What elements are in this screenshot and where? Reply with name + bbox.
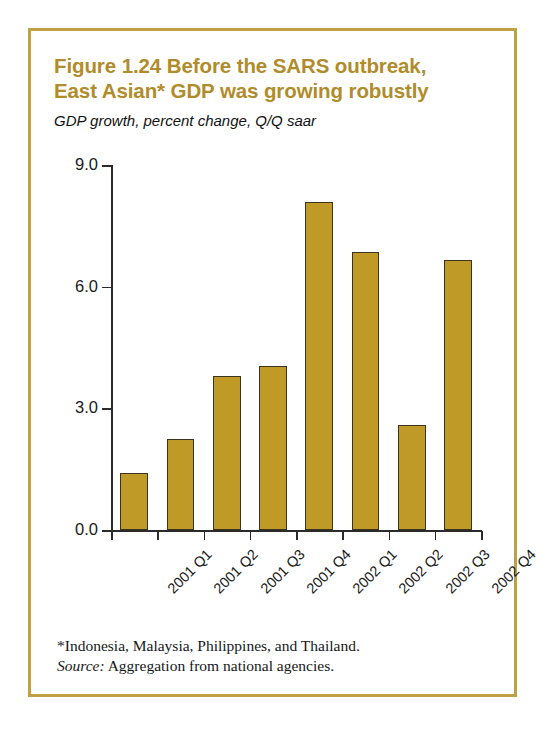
- y-tick-mark: [102, 530, 111, 532]
- source-label: Source:: [57, 657, 105, 674]
- y-tick-label: 9.0: [75, 155, 98, 174]
- bar: [259, 366, 287, 530]
- x-tick-label: 2001 Q3: [257, 546, 308, 597]
- x-tick-label: 2002 Q2: [396, 546, 447, 597]
- y-axis-line: [111, 165, 113, 531]
- y-tick-mark: [102, 408, 111, 410]
- y-tick-label: 0.0: [75, 520, 98, 539]
- bar: [120, 473, 148, 530]
- figure-title: Figure 1.24 Before the SARS outbreak, Ea…: [54, 53, 494, 103]
- figure-subtitle: GDP growth, percent change, Q/Q saar: [54, 112, 494, 130]
- bar-chart: 0.03.06.09.0 2001 Q12001 Q22001 Q32001 Q…: [51, 151, 500, 581]
- x-tick-mark: [342, 531, 344, 540]
- figure-content: Figure 1.24 Before the SARS outbreak, Ea…: [31, 31, 514, 694]
- bar: [444, 260, 472, 530]
- y-tick-mark: [102, 165, 111, 167]
- x-tick-mark: [204, 531, 206, 540]
- x-tick-label: 2001 Q4: [303, 546, 354, 597]
- source-text: Aggregation from national agencies.: [105, 657, 334, 674]
- bar: [305, 202, 333, 531]
- footnote-source: Source: Aggregation from national agenci…: [57, 656, 487, 676]
- plot-area: 0.03.06.09.0 2001 Q12001 Q22001 Q32001 Q…: [111, 165, 481, 530]
- footnotes: *Indonesia, Malaysia, Philippines, and T…: [57, 636, 487, 676]
- x-tick-mark: [250, 531, 252, 540]
- x-tick-mark: [296, 531, 298, 540]
- bar: [398, 425, 426, 530]
- bar: [167, 439, 195, 530]
- x-tick-label: 2002 Q4: [488, 546, 539, 597]
- bar: [352, 252, 380, 530]
- x-tick-label: 2001 Q2: [211, 546, 262, 597]
- x-tick-label: 2001 Q1: [164, 546, 215, 597]
- x-tick-mark: [389, 531, 391, 540]
- bar: [213, 376, 241, 530]
- x-tick-mark: [157, 531, 159, 540]
- footnote-countries: *Indonesia, Malaysia, Philippines, and T…: [57, 636, 487, 656]
- x-tick-label: 2002 Q3: [442, 546, 493, 597]
- x-tick-mark: [435, 531, 437, 540]
- y-tick-mark: [102, 287, 111, 289]
- x-tick-mark: [481, 531, 483, 540]
- y-tick-label: 6.0: [75, 277, 98, 296]
- figure-frame: Figure 1.24 Before the SARS outbreak, Ea…: [28, 28, 517, 697]
- x-tick-mark: [111, 531, 113, 540]
- y-tick-label: 3.0: [75, 398, 98, 417]
- x-tick-label: 2002 Q1: [349, 546, 400, 597]
